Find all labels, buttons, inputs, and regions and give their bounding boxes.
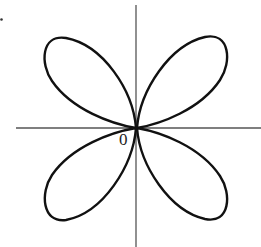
petal-lower-right: [137, 128, 227, 220]
rose-curve-diagram: [0, 0, 261, 247]
petal-upper-right: [137, 36, 227, 128]
stray-dot: [0, 18, 3, 21]
origin-label: 0: [119, 131, 128, 148]
petal-upper-left: [45, 38, 136, 128]
